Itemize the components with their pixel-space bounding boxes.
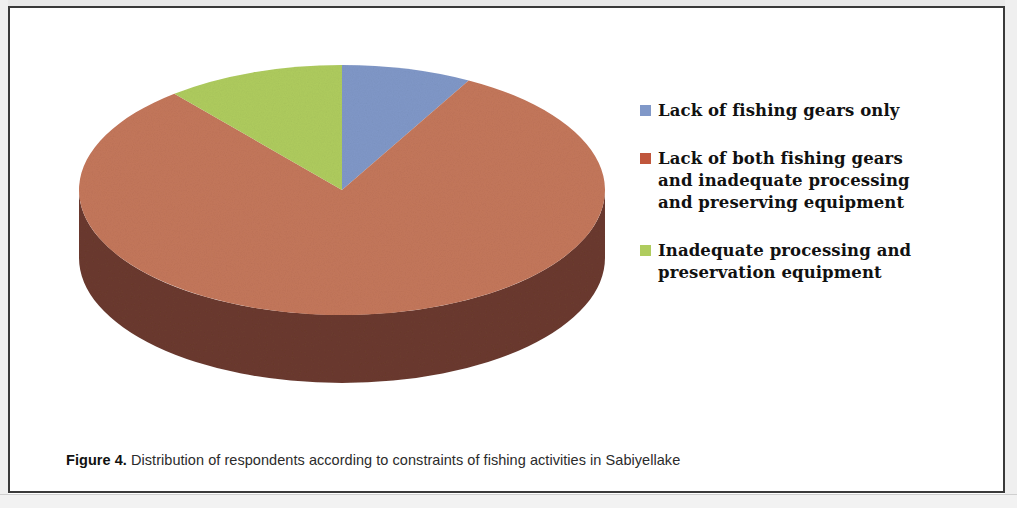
chart-legend: Lack of fishing gears only Lack of both … bbox=[640, 100, 970, 310]
scan-edge-bottom bbox=[0, 494, 1017, 508]
legend-label-1: Lack of both fishing gears and inadequat… bbox=[658, 148, 910, 214]
pie-slices-group bbox=[79, 65, 605, 383]
figure-caption: Figure 4. Distribution of respondents ac… bbox=[66, 452, 966, 468]
legend-item-1[interactable]: Lack of both fishing gears and inadequat… bbox=[640, 148, 970, 214]
pie-top-faces bbox=[79, 65, 605, 315]
legend-label-0: Lack of fishing gears only bbox=[658, 100, 899, 122]
pie-chart: Lack of fishing gears only Lack of both … bbox=[10, 8, 1003, 433]
legend-swatch-1 bbox=[640, 153, 651, 164]
legend-item-2[interactable]: Inadequate processing and preservation e… bbox=[640, 240, 970, 284]
figure-page: Lack of fishing gears only Lack of both … bbox=[0, 0, 1017, 508]
scan-edge-right bbox=[1005, 0, 1017, 508]
figure-number: Figure 4. bbox=[66, 452, 127, 468]
legend-swatch-0 bbox=[640, 105, 651, 116]
legend-label-2: Inadequate processing and preservation e… bbox=[658, 240, 911, 284]
scan-edge-left bbox=[0, 0, 8, 508]
legend-swatch-2 bbox=[640, 245, 651, 256]
legend-item-0[interactable]: Lack of fishing gears only bbox=[640, 100, 970, 122]
figure-caption-text: Distribution of respondents according to… bbox=[127, 452, 680, 468]
